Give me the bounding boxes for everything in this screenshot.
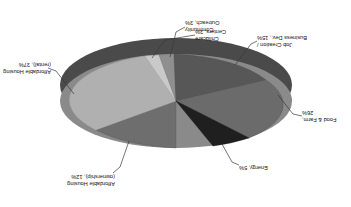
slice-label-community-outreach: Community Outreach, 3% <box>185 20 247 33</box>
slice-label-affordable-rental: Affordable Housing (rental), 37% <box>0 62 51 75</box>
pie-top-face <box>60 54 292 148</box>
leader-line-affordable-ownership <box>113 141 129 173</box>
slice-label-affordable-ownership: Affordable Housing (ownership), 12% <box>19 174 115 187</box>
slice-label-job-creation: Job Creation / Business Dev., 15% <box>257 35 337 48</box>
rotated-chart-canvas: Affordable Housing (ownership), 12% Affo… <box>0 0 351 207</box>
slice-label-energy: Energy, 5% <box>239 164 283 171</box>
pie-chart-figure: Affordable Housing (ownership), 12% Affo… <box>0 0 351 207</box>
slice-label-food-and-farm: Food & Farm, 26% <box>302 110 351 123</box>
leader-line-energy <box>222 144 239 165</box>
